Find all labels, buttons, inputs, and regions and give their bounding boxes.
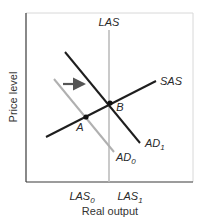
las1-tick-label: LAS1 bbox=[117, 190, 142, 205]
y-axis-title: Price level bbox=[7, 72, 19, 123]
x-axis-title: Real output bbox=[82, 205, 138, 217]
ad-as-diagram: LAS AD0 AD1 SAS A B LAS0 LAS1 Real outpu… bbox=[0, 0, 204, 221]
sas-label: SAS bbox=[160, 75, 183, 87]
las-label: LAS bbox=[99, 16, 120, 28]
point-b bbox=[107, 100, 112, 105]
point-a-label: A bbox=[75, 121, 83, 133]
point-b-label: B bbox=[116, 101, 123, 113]
point-a bbox=[83, 114, 88, 119]
las0-tick-label: LAS0 bbox=[69, 190, 95, 205]
